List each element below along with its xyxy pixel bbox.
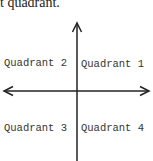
- coordinate-axes: [0, 0, 153, 161]
- quadrant-4-label: Quadrant 4: [81, 122, 144, 134]
- quadrant-2-label: Quadrant 2: [4, 57, 67, 69]
- quadrant-1-label: Quadrant 1: [81, 58, 144, 70]
- quadrant-3-label: Quadrant 3: [4, 122, 67, 134]
